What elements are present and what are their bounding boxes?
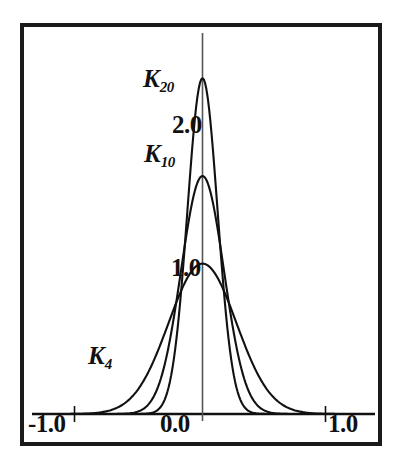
figure-root: -1.0 0.0 1.0 1.0 2.0 K20 K10 K4 (0, 0, 400, 466)
curve-label-k20-base: K (143, 65, 160, 92)
chart-canvas (0, 0, 400, 466)
curve-label-k4: K4 (88, 343, 112, 372)
x-tick-label-minus-one: -1.0 (28, 411, 66, 436)
axes-group (32, 33, 375, 422)
x-tick-label-zero: 0.0 (160, 411, 190, 436)
curve-label-k10-subscript: 10 (161, 154, 175, 170)
curve-label-k20: K20 (143, 66, 174, 95)
y-tick-label-two: 2.0 (172, 112, 202, 137)
x-tick-label-one: 1.0 (328, 411, 358, 436)
curve-label-k4-base: K (88, 342, 105, 369)
y-tick-label-one: 1.0 (171, 255, 201, 280)
curve-label-k10: K10 (144, 141, 175, 170)
curve-label-k20-subscript: 20 (160, 79, 174, 95)
curve-label-k10-base: K (144, 140, 161, 167)
curve-label-k4-subscript: 4 (105, 356, 112, 372)
